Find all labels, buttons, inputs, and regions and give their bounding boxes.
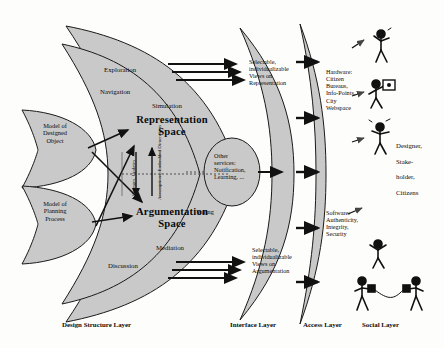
label-axis-assumptions-dimensions: Assumptions, Embedded Dimensions — [157, 125, 163, 200]
label-exploration: Exploration — [104, 66, 136, 74]
label-navigation: Navigation — [100, 88, 130, 96]
label-social-actors: Designer, Stake- holder, Citizens — [396, 142, 442, 197]
label-model-planning-process: Model of Planning Process — [30, 200, 80, 222]
model-planning-process-shape — [22, 186, 96, 264]
stick-figure-designer — [366, 26, 398, 64]
caption-design-structure-layer: Design Structure Layer — [62, 321, 131, 329]
caption-interface-layer: Interface Layer — [230, 321, 276, 329]
label-axis-changes-updates: Changes, Updates — [131, 160, 137, 196]
label-model-designed-object: Model of Designed Object — [30, 122, 80, 144]
label-simulation: Simulation — [152, 102, 182, 110]
caption-access-layer: Access Layer — [303, 321, 342, 329]
label-access-software: Software: Authenticity, Integrity, Secur… — [326, 209, 368, 238]
label-representation-space: Representation Space — [118, 114, 226, 138]
label-argumentation-space: Argumentation Space — [118, 206, 226, 230]
stick-figure-stakeholder-with-sign — [364, 74, 400, 110]
label-discussion: Discussion — [108, 262, 138, 270]
label-views-on-representation: Selectable, individualizable Views on Re… — [249, 58, 301, 87]
access-layer-shape — [300, 24, 326, 324]
caption-social-layer: Social Layer — [362, 321, 399, 329]
label-mediation: Mediation — [156, 244, 184, 252]
label-views-on-argumentation: Selectable, individualizable Views on Ar… — [252, 246, 304, 275]
stick-figures-can-telephone — [350, 272, 442, 318]
diagram-canvas: Exploration Navigation Simulation Voting… — [0, 0, 444, 348]
stick-figure-citizen — [366, 118, 398, 156]
arrow-access-to-social-3 — [352, 138, 364, 142]
label-access-hardware: Hardware: Citizen Bureaus, Info-Points, … — [326, 68, 368, 111]
arrow-access-to-social-1 — [352, 40, 364, 48]
label-other-services: Other services: Notification, Learning, … — [214, 152, 258, 181]
stick-figure-social-top — [364, 236, 394, 270]
